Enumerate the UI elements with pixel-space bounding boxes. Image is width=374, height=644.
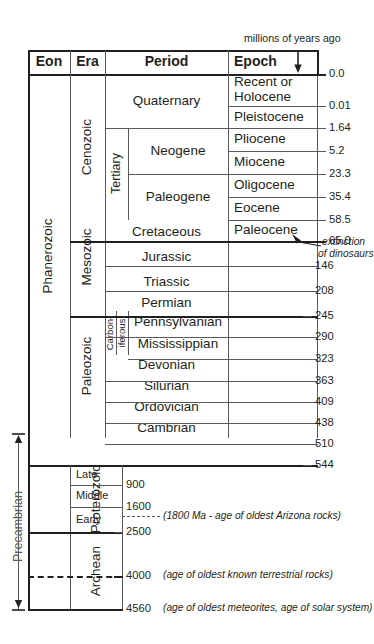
age-label-438: 438 bbox=[315, 416, 334, 428]
age-label-510: 510 bbox=[315, 437, 334, 449]
table-right-border-header bbox=[317, 50, 319, 74]
rule-65-0 bbox=[70, 241, 318, 243]
period-silurian: Silurian bbox=[105, 376, 228, 397]
tick-323 bbox=[303, 359, 312, 360]
tick-510 bbox=[303, 444, 312, 445]
rule-5-2 bbox=[228, 151, 318, 152]
proterozoic-middle: Middle bbox=[76, 485, 122, 507]
annotation-meteorites: (age of oldest meteorites, age of solar … bbox=[163, 602, 373, 614]
proterozoic-early: Early bbox=[76, 507, 122, 533]
age-label-58-5: 58.5 bbox=[329, 213, 351, 225]
rule-146 bbox=[105, 266, 318, 267]
epoch-eocene: Eocene bbox=[234, 197, 318, 220]
tick-1-64 bbox=[317, 128, 326, 129]
annotation-extinction-line1: extinction bbox=[322, 236, 365, 248]
age-label-0-01: 0.01 bbox=[329, 99, 351, 111]
eon-phanerozoic: Phanerozoic bbox=[28, 74, 70, 438]
dashed-line-1800-arizona bbox=[122, 516, 160, 517]
tick-245 bbox=[303, 316, 312, 317]
tick-544 bbox=[303, 465, 312, 466]
rule-290 bbox=[105, 337, 318, 338]
rule-2500 bbox=[28, 532, 122, 534]
age-label-1600: 1600 bbox=[126, 500, 151, 512]
tick-4560 bbox=[114, 609, 123, 611]
precambrian-divider-subdivision bbox=[122, 465, 123, 610]
tick-4000 bbox=[114, 576, 123, 578]
annotation-extinction-line2: of dinosaurs bbox=[318, 248, 374, 260]
header-divider-era-period bbox=[105, 50, 106, 74]
epoch-recent-line1: Recent or bbox=[234, 75, 293, 90]
period-pennsylvanian: Pennsylvanian bbox=[128, 311, 228, 333]
rule-0-01 bbox=[228, 106, 318, 107]
column-header-period: Period bbox=[105, 50, 228, 74]
tick-58-5 bbox=[317, 220, 326, 221]
period-quaternary: Quaternary bbox=[105, 74, 228, 128]
era-cenozoic: Cenozoic bbox=[70, 74, 105, 220]
age-label-4000: 4000 bbox=[126, 569, 151, 581]
age-label-1-64: 1.64 bbox=[329, 121, 351, 133]
age-label-363: 363 bbox=[315, 374, 334, 386]
tick-290 bbox=[303, 337, 312, 338]
age-label-544: 544 bbox=[315, 458, 334, 470]
tick-1600 bbox=[114, 507, 123, 508]
rule-510 bbox=[105, 444, 318, 445]
tick-0-0 bbox=[317, 74, 326, 76]
rule-208 bbox=[105, 291, 318, 292]
tick-5-2 bbox=[317, 151, 326, 152]
age-label-146: 146 bbox=[315, 259, 334, 271]
column-header-era: Era bbox=[70, 50, 105, 74]
tick-146 bbox=[303, 266, 312, 267]
rule-245 bbox=[70, 316, 318, 318]
period-cambrian: Cambrian bbox=[105, 418, 228, 438]
rule-363 bbox=[105, 381, 318, 382]
rule-58-5 bbox=[228, 220, 318, 221]
rule-4560 bbox=[28, 609, 122, 611]
annotation-terrestrial-rocks: (age of oldest known terrestrial rocks) bbox=[163, 569, 333, 581]
annotation-arizona-rocks: (1800 Ma - age of oldest Arizona rocks) bbox=[163, 510, 341, 522]
age-label-35-4: 35.4 bbox=[329, 190, 351, 202]
era-mesozoic: Mesozoic bbox=[70, 220, 105, 295]
period-paleogene: Paleogene bbox=[128, 174, 228, 220]
eon-precambrian-label: Precambrian bbox=[6, 452, 30, 602]
rule-35-4 bbox=[228, 197, 318, 198]
tick-409 bbox=[303, 402, 312, 403]
dashed-line-4000 bbox=[28, 576, 122, 578]
tick-438 bbox=[303, 423, 312, 424]
precambrian-up-arrow-icon bbox=[10, 432, 28, 446]
age-label-23-3: 23.3 bbox=[329, 167, 351, 179]
header-divider-period-epoch bbox=[228, 50, 229, 74]
tick-363 bbox=[303, 381, 312, 382]
epoch-recent-holocene: Recent or Holocene bbox=[234, 74, 318, 106]
age-label-900: 900 bbox=[126, 478, 145, 490]
era-archean: Archean bbox=[70, 533, 122, 610]
epoch-pliocene: Pliocene bbox=[234, 128, 318, 151]
rule-438 bbox=[105, 423, 318, 424]
epoch-pleistocene: Pleistocene bbox=[234, 106, 318, 128]
rule-1-64 bbox=[105, 128, 318, 129]
epoch-miocene: Miocene bbox=[234, 151, 318, 174]
tick-208 bbox=[303, 291, 312, 292]
age-label-290: 290 bbox=[315, 330, 334, 342]
age-label-323: 323 bbox=[315, 352, 334, 364]
epoch-holocene-line2: Holocene bbox=[234, 90, 291, 105]
rule-409 bbox=[105, 402, 318, 403]
rule-323 bbox=[128, 359, 318, 360]
rule-23-3 bbox=[128, 174, 318, 175]
tick-0-01 bbox=[317, 106, 326, 107]
proterozoic-late: Late bbox=[76, 465, 122, 485]
age-label-0-0: 0.0 bbox=[329, 67, 345, 79]
period-neogene: Neogene bbox=[128, 128, 228, 174]
tick-900 bbox=[114, 485, 123, 486]
column-header-epoch: Epoch bbox=[234, 50, 318, 74]
period-ordovician: Ordovician bbox=[105, 397, 228, 418]
tick-2500 bbox=[114, 532, 123, 533]
tick-35-4 bbox=[317, 197, 326, 198]
header-divider-eon-era bbox=[70, 50, 71, 74]
age-label-5-2: 5.2 bbox=[329, 144, 345, 156]
age-label-2500: 2500 bbox=[126, 525, 151, 537]
period-permian: Permian bbox=[105, 295, 228, 311]
period-tertiary: Tertiary bbox=[105, 128, 128, 220]
age-label-409: 409 bbox=[315, 395, 334, 407]
age-label-245: 245 bbox=[315, 309, 334, 321]
